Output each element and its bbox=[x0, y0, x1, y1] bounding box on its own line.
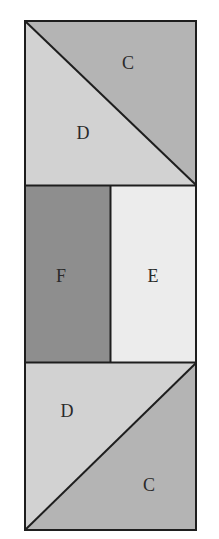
bottom-square: D C bbox=[25, 363, 196, 530]
region-middle-f bbox=[25, 186, 110, 362]
label-middle-e: E bbox=[148, 266, 159, 286]
label-bottom-d: D bbox=[61, 401, 74, 421]
label-bottom-c: C bbox=[143, 475, 155, 495]
quilt-block-diagram: C D F E D C bbox=[0, 0, 219, 539]
label-top-c: C bbox=[122, 53, 134, 73]
top-square: C D bbox=[25, 21, 196, 185]
label-top-d: D bbox=[77, 123, 90, 143]
label-middle-f: F bbox=[56, 266, 66, 286]
middle-rectangle: F E bbox=[25, 186, 196, 363]
